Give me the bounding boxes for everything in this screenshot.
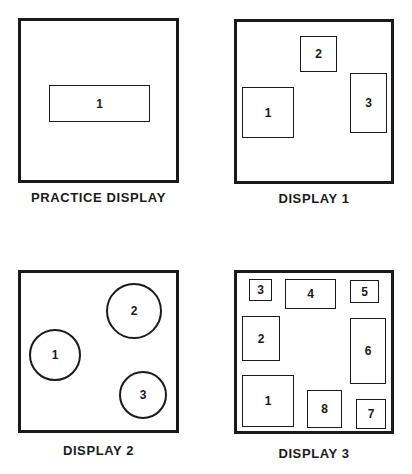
display-3-rect-4: 4	[285, 279, 336, 309]
display-3-rect-5: 5	[350, 280, 379, 303]
display-3-rect-7: 7	[356, 399, 386, 429]
display-1-rect-2: 2	[300, 36, 337, 72]
practice-display-caption: PRACTICE DISPLAY	[18, 190, 179, 205]
display-1-rect-3: 3	[350, 73, 387, 133]
display-2-caption: DISPLAY 2	[18, 443, 179, 458]
display-1-caption: DISPLAY 1	[234, 191, 394, 206]
display-3-rect-6: 6	[350, 318, 386, 384]
display-2-circle-1: 1	[29, 329, 81, 381]
display-3-rect-1: 1	[242, 375, 294, 427]
display-3-rect-8: 8	[307, 390, 342, 428]
display-3-rect-3: 3	[249, 279, 272, 301]
practice-display-rect-1: 1	[49, 85, 150, 122]
display-2-circle-3: 3	[119, 371, 167, 419]
display-1-rect-1: 1	[242, 87, 294, 138]
display-3-caption: DISPLAY 3	[234, 446, 394, 461]
display-2-circle-2: 2	[106, 283, 162, 339]
display-3-rect-2: 2	[242, 316, 280, 361]
